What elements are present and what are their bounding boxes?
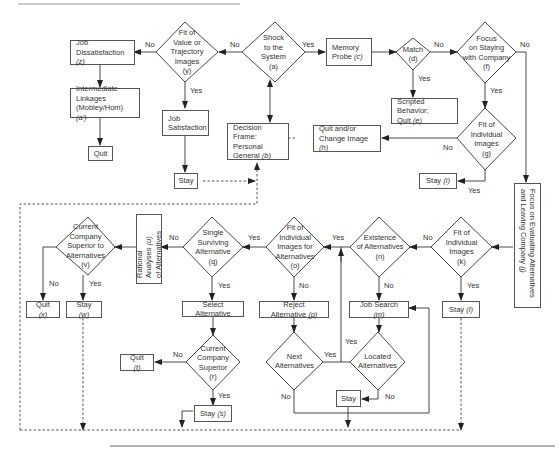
edge-label-yes: Yes [302,40,314,49]
stay-i-box: Stay (i) [419,173,457,189]
node-label: Personal [233,142,283,152]
node-label: Dissatisfaction [76,48,124,57]
node-label: of Alternatives [154,220,164,278]
node-tag: (l) [466,305,473,314]
node-tag: (u) [144,236,153,245]
node-label: Fit of Individual Images (g) [471,120,503,158]
node-label: Select Alternative [188,300,238,319]
edge-label-yes: Yes [218,281,230,290]
edge-label-yes: Yes [332,233,344,242]
node-tag: (m) [373,310,384,319]
edge-label-no: No [169,233,179,242]
node-label: Next Alternatives [275,352,314,371]
edge-label-yes: Yes [89,279,101,288]
node-label: Current Company Superior (r) [197,344,229,382]
located-alternatives-diamond: Located Alternatives [350,332,405,390]
node-tag: (i) [443,176,450,185]
edge-label-yes: Yes [324,350,336,359]
node-tag: (w) [79,310,89,319]
node-tag: (s) [217,409,226,418]
intermediate-linkages-box: Intermediate Linkages (Mobley/Hom) (a') [70,88,140,118]
current-superior-to-alternatives-diamond: Current Company Superior to Alternatives… [56,217,115,275]
node-label: Stay [449,305,464,314]
node-label: Stay [426,176,441,185]
node-label: Stay [179,176,194,186]
memory-probe-box: Memory Probe (c) [326,38,372,66]
node-label: Probe [332,52,352,61]
edge-label-no: No [385,392,395,401]
edge-label-no: No [230,40,240,49]
scripted-behavior-box: Scripted Behavior; Quit (e) [391,98,458,124]
node-label: Satisfaction [168,123,203,133]
edge-label-yes: Yes [490,86,502,95]
edge-label-no: No [299,281,309,290]
node-label: Stay [200,409,215,418]
edge-label-yes: Yes [468,186,480,195]
node-tag: (z) [76,57,85,66]
node-tag: (j) [519,266,528,273]
edge-label-yes: Yes [418,74,430,83]
edge-label-no: No [173,350,183,359]
stay-box: Stay [174,173,198,189]
node-tag: (c) [354,52,363,61]
node-label: (Mobley/Hom) [76,103,123,112]
quit-t-box: Quit (t) [120,354,154,371]
node-tag: (a') [76,113,87,122]
decision-frame-box: Decision Frame: Personal General (b) [227,123,289,160]
job-search-box: Job Search (m) [349,301,409,318]
node-label: Intermediate [76,84,134,94]
edge-label-no: No [384,281,394,290]
edge-label-yes: Yes [345,337,357,346]
node-label: Focus on Staying with Company (f) [463,34,511,72]
node-label: Match (d) [403,45,423,64]
job-dissatisfaction-box: Job Dissatisfaction (z) [70,40,135,65]
node-tag: (t) [133,363,140,372]
edge-label-no: No [49,279,59,288]
fit-images-alternatives-diamond: Fit of Individual Images for Alternative… [266,217,324,277]
focus-evaluating-alternatives-box: Focus on Evaluating Alternatives and Lea… [514,183,541,308]
node-label: Job Search [360,300,398,309]
node-label: Quit [130,353,144,362]
node-label: Scripted Behavior; [397,97,452,116]
node-label: Change Image [319,134,368,143]
fit-value-trajectory-diamond: Fit of Value or Trajectory Images (y) [156,22,218,82]
node-label: Rational Analyses [135,248,154,278]
current-company-superior-diamond: Current Company Superior (r) [186,335,240,390]
node-label: Quit [94,149,108,159]
edge-label-no: No [423,233,433,242]
fit-individual-images-g-diamond: Fit of Individual Images (g) [457,108,516,170]
node-label: Fit of Individual Images for Alternative… [275,223,314,271]
edge-label-yes: Yes [190,86,202,95]
node-label: Stay [76,300,91,309]
node-label: Fit of Individual Images (k) [446,228,478,266]
node-tag: (e) [413,116,422,125]
stay-box-bottom: Stay [336,390,361,407]
rational-analyses-box: Rational Analyses (u) of Alternatives [136,214,162,284]
quit-change-image-box: Quit and/or Change Image (h) [313,125,381,152]
shock-to-system-diamond: Shock to the System (a) [242,22,305,82]
next-alternatives-diamond: Next Alternatives [266,332,323,390]
edge-label-no: No [281,392,291,401]
job-satisfaction-box: Job Satisfaction [162,110,209,136]
node-label: Shock to the System (a) [261,33,286,71]
node-label: General [233,151,260,160]
focus-staying-diamond: Focus on Staying with Company (f) [457,22,516,83]
node-label: Single Surviving Alternative (q) [195,228,230,266]
quit-x-box: Quit (x) [26,301,60,318]
node-label: Current Company Superior to Alternatives… [66,222,105,270]
fit-individual-images-k-diamond: Fit of Individual Images (k) [431,217,492,277]
node-label: Stay [341,394,356,404]
select-alternative-box: Select Alternative [182,301,244,317]
node-label: Quit [397,116,411,125]
edge-label-yes: Yes [248,233,260,242]
single-surviving-alternative-diamond: Single Surviving Alternative (q) [183,217,243,277]
node-label: Existence of Alternatives (n) [356,233,403,262]
node-label: Quit and/or [319,124,375,134]
node-label: Memory [332,43,366,53]
node-label: Reject Alternative [271,300,306,319]
stay-s-box: Stay (s) [194,405,232,422]
edge-label-yes: Yes [218,391,230,400]
stay-l-box: Stay (l) [442,301,480,318]
existence-alternatives-diamond: Existence of Alternatives (n) [350,217,410,277]
node-label: Job [168,114,203,124]
